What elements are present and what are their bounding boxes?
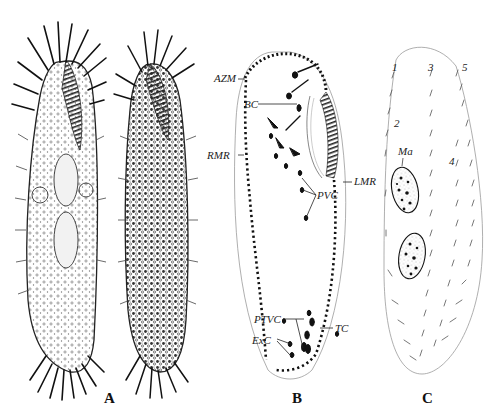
panel-label-c: C (422, 391, 433, 406)
macronucleus-upper (388, 165, 423, 215)
label-kinety-1: 1 (392, 62, 398, 73)
label-tc: TC (335, 323, 348, 334)
dorsal-kineties (385, 70, 474, 360)
label-macronucleus: Ma (398, 146, 413, 157)
panel-label-a: A (104, 391, 115, 406)
cell-outline-c (384, 47, 483, 374)
label-kinety-4: 4 (449, 156, 455, 167)
macronucleus-lower (395, 231, 429, 281)
label-kinety-5: 5 (462, 62, 468, 73)
label-pvc: PVC (317, 190, 338, 201)
label-bc: BC (244, 99, 258, 110)
label-ptvc: PTVC (254, 314, 281, 325)
panel-label-b: B (292, 391, 302, 406)
label-exc: ExC (252, 335, 271, 346)
figure-canvas: A B C AZM BC RMR LMR PVC PTVC ExC TC 1 2… (0, 0, 504, 416)
label-kinety-2: 2 (394, 118, 400, 129)
label-lmr: LMR (354, 176, 376, 187)
label-kinety-3: 3 (428, 62, 434, 73)
label-rmr: RMR (207, 150, 230, 161)
label-azm: AZM (214, 73, 236, 84)
